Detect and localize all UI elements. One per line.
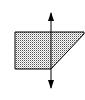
arrow-up-icon	[48, 12, 54, 21]
shaded-polygon	[15, 32, 84, 69]
diagram-canvas	[0, 0, 85, 100]
arrow-down-icon	[48, 80, 54, 89]
diagram-svg	[0, 0, 85, 100]
